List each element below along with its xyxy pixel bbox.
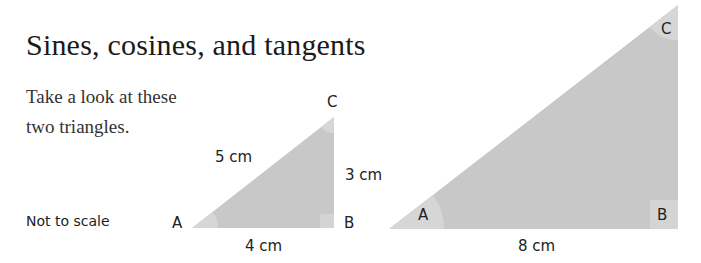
large-adjacent-label: 8 cm (518, 237, 555, 255)
large-vertex-b-label: B (657, 206, 667, 224)
small-adjacent-label: 4 cm (245, 237, 282, 255)
large-vertex-c-label: C (661, 20, 671, 38)
small-vertex-b-label: B (344, 214, 354, 232)
small-opposite-label: 3 cm (345, 166, 382, 184)
small-triangle (192, 117, 334, 228)
large-angle-a-marker (389, 195, 444, 229)
large-triangle (389, 5, 678, 229)
large-vertex-a-label: A (418, 206, 428, 224)
small-right-angle-marker (320, 214, 334, 228)
small-hypotenuse-label: 5 cm (215, 148, 252, 166)
small-angle-a-marker (192, 212, 218, 228)
small-vertex-c-label: C (327, 93, 337, 111)
small-vertex-a-label: A (172, 214, 182, 232)
